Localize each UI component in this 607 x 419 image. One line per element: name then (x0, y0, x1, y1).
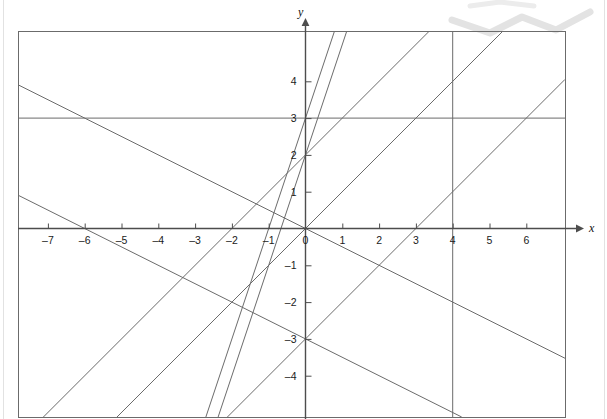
x-axis-arrowhead (576, 225, 584, 233)
y-tick-label: –1 (285, 259, 297, 271)
x-tick-label: 1 (339, 234, 345, 246)
plot-line-y=-0.5x (18, 85, 565, 359)
x-tick-label: 6 (523, 234, 529, 246)
y-tick-label: –3 (285, 333, 297, 345)
plot-line-y=x (117, 31, 503, 417)
x-tick-label: 5 (487, 234, 493, 246)
coordinate-grid-figure: –7–6–5–4–3–2–10123456–4–3–2–11234 x y (0, 0, 607, 419)
x-axis-label: x (588, 221, 595, 235)
plotted-lines-layer (18, 31, 565, 417)
x-tick-label: 0 (303, 234, 309, 246)
plot-line-y=x+2 (43, 31, 429, 417)
x-tick-label: –1 (263, 234, 275, 246)
y-tick-label: –4 (285, 370, 297, 382)
y-tick-label: 1 (291, 186, 297, 198)
y-tick-label: 4 (291, 75, 297, 87)
x-tick-label: –3 (189, 234, 201, 246)
zigzag-watermark-icon (452, 2, 590, 33)
plot-line-y=3x+2 (218, 31, 347, 417)
x-tick-label: 2 (376, 234, 382, 246)
axes-layer (18, 18, 584, 419)
plot-line-y=3x+3 (206, 31, 335, 417)
y-tick-label: 3 (291, 112, 297, 124)
x-tick-label: –4 (152, 234, 164, 246)
x-tick-label: –5 (116, 234, 128, 246)
y-tick-label: 2 (291, 149, 297, 161)
y-axis-arrowhead (302, 18, 310, 26)
y-tick-label: –2 (285, 296, 297, 308)
x-tick-label: –7 (42, 234, 54, 246)
plot-line-y=x-3 (227, 79, 565, 417)
figure-page: –7–6–5–4–3–2–10123456–4–3–2–11234 x y (0, 0, 607, 419)
x-tick-label: 3 (413, 234, 419, 246)
y-axis-label: y (297, 5, 304, 19)
x-tick-label: 4 (450, 234, 456, 246)
x-tick-label: –6 (79, 234, 91, 246)
x-tick-label: –2 (226, 234, 238, 246)
